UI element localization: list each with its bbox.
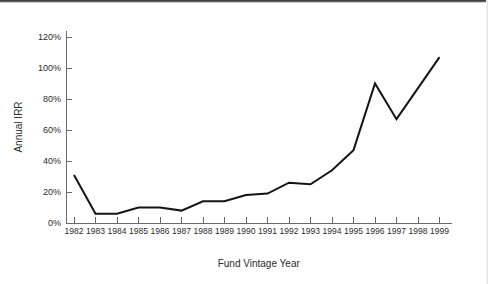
y-axis-title: Annual IRR	[13, 101, 24, 152]
x-tick-label: 1987	[172, 226, 191, 236]
x-tick-label: 1990	[237, 226, 256, 236]
x-tick-label: 1985	[129, 226, 148, 236]
x-tick-label: 1993	[301, 226, 320, 236]
x-axis-ticks	[74, 217, 440, 223]
chart-svg: 0%20%40%60%80%100%120% 19821983198419851…	[0, 0, 488, 284]
x-tick-label: 1999	[430, 226, 449, 236]
y-tick-label: 20%	[43, 187, 61, 197]
x-axis-title: Fund Vintage Year	[218, 258, 301, 269]
x-tick-label: 1986	[151, 226, 170, 236]
x-tick-label: 1988	[194, 226, 213, 236]
y-tick-label: 120%	[38, 32, 61, 42]
x-tick-label: 1997	[387, 226, 406, 236]
x-axis: 1982198319841985198619871988198919901991…	[65, 217, 452, 236]
y-tick-label: 100%	[38, 63, 61, 73]
x-tick-label: 1998	[409, 226, 428, 236]
x-tick-label: 1989	[215, 226, 234, 236]
x-tick-label: 1984	[108, 226, 127, 236]
x-tick-label: 1992	[280, 226, 299, 236]
irr-line-series	[74, 57, 440, 214]
y-tick-label: 40%	[43, 156, 61, 166]
line-chart: 0%20%40%60%80%100%120% 19821983198419851…	[0, 0, 488, 284]
y-tick-label: 0%	[48, 218, 61, 228]
chart-page: 0%20%40%60%80%100%120% 19821983198419851…	[0, 0, 488, 284]
y-axis-ticks	[66, 37, 72, 192]
y-axis-tick-labels: 0%20%40%60%80%100%120%	[38, 32, 61, 228]
x-tick-label: 1995	[344, 226, 363, 236]
x-tick-label: 1991	[258, 226, 277, 236]
y-axis: 0%20%40%60%80%100%120%	[38, 31, 72, 228]
x-tick-label: 1982	[65, 226, 84, 236]
data-series-group	[74, 57, 440, 214]
x-tick-label: 1983	[86, 226, 105, 236]
x-tick-label: 1994	[323, 226, 342, 236]
y-tick-label: 80%	[43, 94, 61, 104]
x-axis-tick-labels: 1982198319841985198619871988198919901991…	[65, 226, 450, 236]
y-tick-label: 60%	[43, 125, 61, 135]
x-tick-label: 1996	[366, 226, 385, 236]
